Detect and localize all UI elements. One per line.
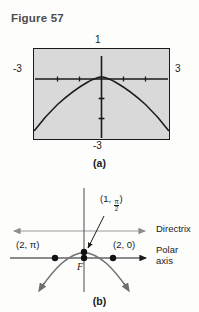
panel-a: 1 -3 3 -3 (a) bbox=[0, 0, 199, 175]
label-right-latus-point: (2, 0) bbox=[113, 240, 135, 251]
panel-a-caption: (a) bbox=[0, 157, 199, 169]
label-left-latus-point: (2, π) bbox=[16, 240, 39, 251]
point-vertex bbox=[81, 249, 87, 255]
vertex-leader-arrow bbox=[88, 216, 104, 248]
point-left-latus bbox=[52, 255, 58, 261]
panel-b-caption: (b) bbox=[0, 295, 199, 307]
figure-root: Figure 57 1 bbox=[0, 0, 199, 312]
calc-label-ymax: 1 bbox=[95, 34, 101, 45]
calc-label-xmin: -3 bbox=[13, 63, 22, 74]
point-right-latus bbox=[110, 255, 116, 261]
parabola-arrow-right bbox=[124, 283, 129, 291]
label-polar-axis: Polar axis bbox=[156, 245, 178, 266]
calc-label-ymin: -3 bbox=[93, 140, 102, 151]
calculator-plot bbox=[33, 48, 170, 140]
label-polar-axis-line2: axis bbox=[156, 256, 178, 267]
parabola-arrow-left bbox=[39, 283, 44, 291]
label-focus: F bbox=[77, 261, 83, 272]
label-vertex-point: (1, π2) bbox=[100, 194, 123, 213]
calc-label-xmax: 3 bbox=[175, 63, 181, 74]
pi-over-two-fraction: π2 bbox=[114, 199, 119, 213]
label-vertex-close: ) bbox=[120, 193, 123, 204]
panel-b: (1, π2) (2, π) (2, 0) F Directrix Polar … bbox=[0, 180, 199, 312]
fraction-denominator: 2 bbox=[114, 206, 119, 212]
label-directrix: Directrix bbox=[156, 224, 191, 235]
label-vertex-open: (1, bbox=[100, 193, 114, 204]
